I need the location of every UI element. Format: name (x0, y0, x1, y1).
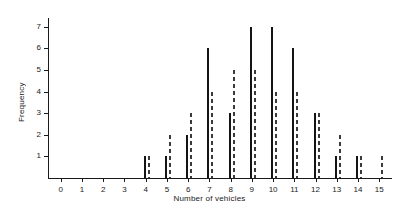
x-tick-label-10: 10 (263, 185, 283, 194)
x-tick-8 (231, 178, 232, 182)
y-tick-2: 2 (44, 135, 49, 136)
bar-expected-11 (296, 92, 298, 178)
bar-expected-15 (381, 156, 383, 178)
y-tick-7: 7 (44, 27, 49, 28)
x-tick-label-2: 2 (93, 185, 113, 194)
x-tick-1 (82, 178, 83, 182)
bar-observed-7 (207, 48, 209, 178)
x-tick-10 (273, 178, 274, 182)
bar-observed-9 (250, 27, 252, 178)
y-tick-6: 6 (44, 48, 49, 49)
x-tick-label-13: 13 (327, 185, 347, 194)
x-axis-line (48, 178, 392, 179)
x-tick-label-14: 14 (348, 185, 368, 194)
y-tick-label-3: 3 (37, 108, 41, 117)
x-tick-label-11: 11 (284, 185, 304, 194)
x-tick-5 (167, 178, 168, 182)
bar-observed-6 (186, 135, 188, 178)
x-tick-label-0: 0 (51, 185, 71, 194)
x-tick-label-8: 8 (221, 185, 241, 194)
y-tick-label-7: 7 (37, 22, 41, 31)
x-tick-label-7: 7 (199, 185, 219, 194)
y-tick-3: 3 (44, 113, 49, 114)
bar-observed-13 (335, 156, 337, 178)
bar-expected-8 (233, 70, 235, 178)
bar-observed-4 (144, 156, 146, 178)
y-tick-label-1: 1 (37, 151, 41, 160)
bar-observed-10 (271, 27, 273, 178)
x-tick-14 (358, 178, 359, 182)
x-tick-label-15: 15 (369, 185, 389, 194)
x-tick-label-9: 9 (242, 185, 262, 194)
bar-expected-10 (275, 92, 277, 178)
bar-expected-12 (318, 113, 320, 178)
bar-expected-9 (254, 70, 256, 178)
y-tick-1: 1 (44, 156, 49, 157)
x-tick-12 (316, 178, 317, 182)
bar-observed-5 (165, 156, 167, 178)
x-tick-6 (188, 178, 189, 182)
bar-expected-7 (211, 92, 213, 178)
y-tick-label-6: 6 (37, 43, 41, 52)
y-tick-label-4: 4 (37, 87, 41, 96)
bar-observed-14 (356, 156, 358, 178)
x-tick-label-12: 12 (306, 185, 326, 194)
x-tick-label-6: 6 (178, 185, 198, 194)
x-tick-15 (379, 178, 380, 182)
bar-expected-4 (148, 156, 150, 178)
y-tick-label-2: 2 (37, 130, 41, 139)
chart-figure: Frequency 1234567 0123456789101112131415… (0, 0, 419, 212)
plot-area: 1234567 0123456789101112131415 (48, 18, 392, 178)
x-tick-label-3: 3 (114, 185, 134, 194)
y-axis-label: Frequency (14, 56, 28, 148)
x-tick-label-1: 1 (72, 185, 92, 194)
x-tick-9 (252, 178, 253, 182)
y-tick-4: 4 (44, 92, 49, 93)
y-tick-label-5: 5 (37, 65, 41, 74)
x-tick-13 (337, 178, 338, 182)
x-tick-4 (146, 178, 147, 182)
bar-observed-12 (314, 113, 316, 178)
x-tick-3 (124, 178, 125, 182)
bar-expected-14 (360, 156, 362, 178)
bar-expected-13 (339, 135, 341, 178)
x-tick-label-5: 5 (157, 185, 177, 194)
bar-expected-5 (169, 135, 171, 178)
x-tick-7 (209, 178, 210, 182)
y-axis-line (48, 18, 49, 178)
y-tick-5: 5 (44, 70, 49, 71)
bar-expected-6 (190, 113, 192, 178)
bar-observed-11 (292, 48, 294, 178)
x-axis-label: Number of vehicles (0, 194, 419, 203)
x-tick-0 (61, 178, 62, 182)
bar-observed-8 (229, 113, 231, 178)
x-tick-label-4: 4 (136, 185, 156, 194)
x-tick-2 (103, 178, 104, 182)
x-tick-11 (294, 178, 295, 182)
